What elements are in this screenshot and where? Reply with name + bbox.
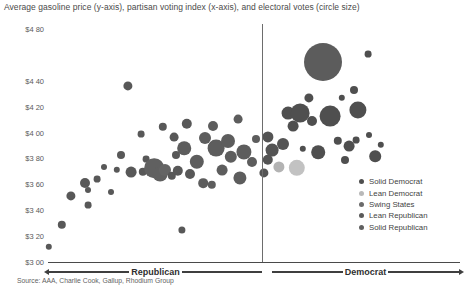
legend-item-lean-republican[interactable]: Lean Republican (359, 210, 428, 221)
x-axis-label-democrat: Democrat (343, 267, 389, 277)
data-bubble (138, 131, 145, 138)
x-axis-label-republican: Republican (129, 267, 182, 277)
data-bubble (178, 226, 185, 233)
data-bubble (46, 244, 52, 250)
data-bubble (262, 131, 273, 142)
data-bubble (170, 133, 179, 142)
data-bubble (208, 121, 218, 131)
data-bubble (217, 165, 228, 176)
data-bubble (234, 115, 243, 124)
legend-item-label: Lean Democrat (369, 189, 422, 198)
legend-item-lean-democrat[interactable]: Lean Democrat (359, 187, 428, 198)
data-bubble (85, 202, 92, 209)
democrat-axis-group: Democrat (272, 266, 464, 278)
right-arrow-icon (459, 269, 464, 275)
legend-dot-icon (359, 179, 364, 184)
data-bubble (353, 137, 360, 144)
data-bubble (233, 171, 246, 184)
data-bubble (159, 123, 167, 131)
axis-rule-left2 (182, 271, 262, 272)
data-bubble (277, 138, 289, 150)
legend-item-swing-states[interactable]: Swing States (359, 199, 428, 210)
data-bubble (304, 93, 313, 102)
data-bubble (221, 134, 235, 148)
data-bubble (208, 181, 216, 189)
data-bubble (365, 51, 372, 58)
axis-rule-left (49, 271, 129, 272)
data-bubble (263, 155, 273, 165)
data-bubble (378, 142, 384, 148)
data-bubble (334, 137, 342, 145)
data-bubble (350, 86, 358, 94)
legend-item-label: Lean Republican (369, 211, 428, 220)
legend: Solid DemocratLean DemocratSwing StatesL… (359, 176, 428, 233)
data-bubble (259, 168, 268, 177)
axis-rule-right2 (388, 271, 459, 272)
data-bubble (369, 150, 381, 162)
data-bubble (300, 146, 306, 152)
data-bubble (185, 169, 195, 179)
data-bubble (320, 106, 341, 127)
data-bubble (66, 191, 75, 200)
data-bubble (273, 161, 284, 172)
data-bubble (80, 178, 90, 188)
data-bubble (307, 116, 317, 126)
data-bubble (289, 160, 305, 176)
data-bubble (58, 221, 66, 229)
data-bubble (123, 81, 132, 90)
data-bubble (126, 167, 137, 178)
data-bubble (247, 157, 257, 167)
axis-rule-right (272, 271, 343, 272)
bubble-chart-plot-area (0, 0, 470, 291)
data-bubble (366, 132, 372, 138)
legend-dot-icon (359, 225, 364, 230)
data-bubble (173, 166, 183, 176)
legend-dot-icon (359, 191, 364, 196)
data-bubble (108, 189, 114, 195)
data-bubble (198, 178, 208, 188)
data-bubble (225, 151, 237, 163)
data-bubble (114, 167, 120, 173)
data-bubble (190, 155, 204, 169)
data-bubble (177, 141, 191, 155)
data-bubble (349, 101, 366, 118)
legend-item-solid-republican[interactable]: Solid Republican (359, 222, 428, 233)
data-bubble (94, 176, 101, 183)
data-bubble (182, 119, 192, 129)
legend-dot-icon (359, 202, 364, 207)
data-bubble (311, 145, 325, 159)
data-bubble (252, 135, 260, 143)
legend-dot-icon (359, 213, 364, 218)
data-bubble (339, 95, 345, 101)
data-bubble (117, 151, 125, 159)
legend-item-label: Solid Democrat (369, 177, 422, 186)
legend-item-solid-democrat[interactable]: Solid Democrat (359, 176, 428, 187)
data-bubble (341, 156, 349, 164)
source-note: Source: AAA, Charlie Cook, Gallup, Rhodi… (17, 277, 174, 284)
data-bubble (304, 43, 342, 81)
legend-item-label: Solid Republican (369, 223, 428, 232)
legend-item-label: Swing States (369, 200, 415, 209)
center-divider-line (262, 24, 263, 262)
x-axis-line (48, 262, 460, 263)
data-bubble (101, 164, 107, 170)
